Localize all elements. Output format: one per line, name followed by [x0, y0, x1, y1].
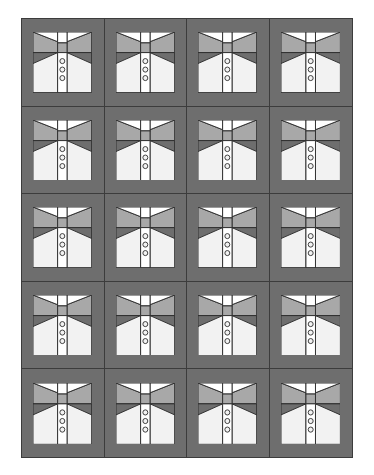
shirt-block	[198, 207, 257, 268]
quilt-cell	[187, 282, 270, 370]
quilt-cell	[270, 194, 353, 282]
quilt-cell	[22, 107, 105, 195]
quilt-cell	[270, 107, 353, 195]
quilt-cell	[270, 282, 353, 370]
quilt-cell	[187, 194, 270, 282]
shirt-block	[198, 383, 257, 444]
quilt-cell	[187, 369, 270, 457]
quilt-cell	[22, 19, 105, 107]
quilt-cell	[22, 194, 105, 282]
shirt-block	[281, 207, 340, 268]
shirt-block	[281, 383, 340, 444]
shirt-block	[198, 120, 257, 181]
shirt-block	[198, 295, 257, 356]
quilt-cell	[187, 19, 270, 107]
quilt-panel	[21, 18, 353, 458]
shirt-block	[33, 120, 92, 181]
image-canvas	[0, 0, 374, 475]
shirt-block	[198, 32, 257, 93]
quilt-cell	[105, 282, 188, 370]
shirt-block	[116, 120, 175, 181]
shirt-block	[33, 32, 92, 93]
quilt-cell	[270, 369, 353, 457]
shirt-block	[116, 383, 175, 444]
quilt-block-grid	[22, 19, 352, 457]
shirt-block	[33, 207, 92, 268]
quilt-cell	[22, 369, 105, 457]
shirt-block	[116, 295, 175, 356]
shirt-block	[281, 32, 340, 93]
quilt-cell	[105, 107, 188, 195]
quilt-cell	[105, 194, 188, 282]
quilt-cell	[187, 107, 270, 195]
quilt-cell	[22, 282, 105, 370]
quilt-cell	[270, 19, 353, 107]
shirt-block	[281, 295, 340, 356]
shirt-block	[116, 207, 175, 268]
shirt-block	[33, 383, 92, 444]
quilt-cell	[105, 369, 188, 457]
shirt-block	[33, 295, 92, 356]
shirt-block	[116, 32, 175, 93]
shirt-block	[281, 120, 340, 181]
quilt-cell	[105, 19, 188, 107]
